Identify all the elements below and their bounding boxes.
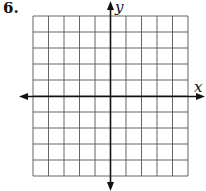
y-axis-label: y (114, 0, 124, 16)
y-axis-down-arrow-icon (107, 182, 114, 191)
x-axis-left-arrow-icon (19, 93, 28, 100)
y-axis-up-arrow-icon (107, 1, 114, 10)
x-axis-label: x (194, 78, 203, 96)
coordinate-grid: y x (0, 0, 206, 191)
x-axis (19, 93, 205, 100)
